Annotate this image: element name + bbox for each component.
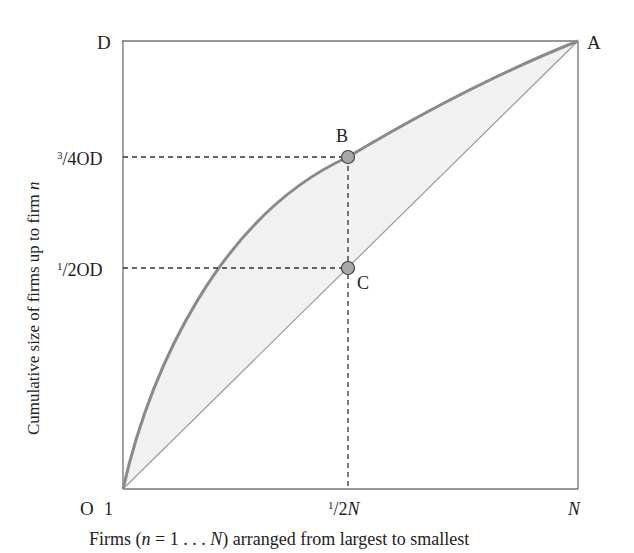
label-a: A — [587, 32, 601, 53]
point-c — [342, 262, 355, 275]
x-axis-label: Firms (n = 1 . . . N) arranged from larg… — [89, 529, 469, 550]
label-d: D — [97, 32, 111, 53]
label-c: C — [357, 273, 369, 293]
x-tick-half-n: 1/2N — [328, 499, 361, 519]
y-tick-1-2: 1/2OD — [57, 260, 103, 280]
x-tick-n: N — [567, 499, 581, 519]
point-b — [342, 151, 355, 164]
y-tick-3-4: 3/4OD — [57, 149, 103, 169]
x-tick-1: 1 — [104, 499, 113, 519]
concentration-curve-diagram: D A O B C 3/4OD 1/2OD 1 1/2N N Firms (n … — [0, 0, 634, 553]
label-b: B — [336, 126, 348, 146]
y-axis-label: Cumulative size of firms up to firm n — [24, 181, 43, 435]
label-o: O — [80, 498, 94, 519]
